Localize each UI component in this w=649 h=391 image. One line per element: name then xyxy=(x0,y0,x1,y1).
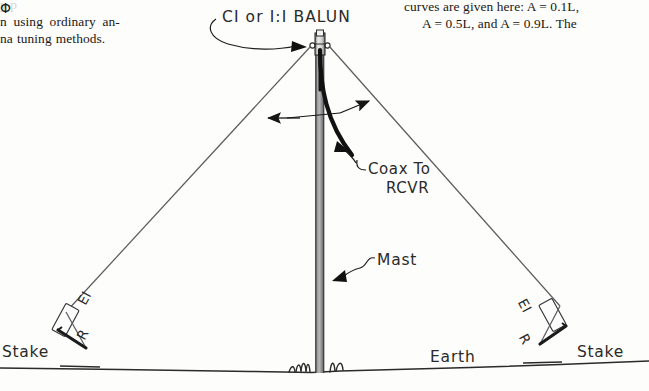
mast-label: Mast xyxy=(377,251,417,269)
coax-label-line1: Coax To xyxy=(368,160,430,178)
antenna-diagram-svg xyxy=(0,0,649,391)
diagram-page: y p n using ordinary an- na tuning metho… xyxy=(0,0,649,391)
stake-left-label: Stake xyxy=(2,343,49,361)
antenna-wires xyxy=(66,46,560,312)
left-ground-strip xyxy=(60,366,100,367)
mast-leader-line xyxy=(332,258,375,282)
stake-right-label: Stake xyxy=(577,343,624,361)
right-ground-strip xyxy=(523,362,562,363)
earth-label: Earth xyxy=(430,348,476,366)
antenna-wire-right xyxy=(329,46,560,306)
balun-label: CI or I:I BALUN xyxy=(222,8,351,26)
coax-leader-line xyxy=(334,141,366,170)
coax-label: Coax To RCVR xyxy=(368,160,430,198)
antenna-wire-left xyxy=(66,46,311,312)
coax-label-line2: RCVR xyxy=(368,179,430,198)
